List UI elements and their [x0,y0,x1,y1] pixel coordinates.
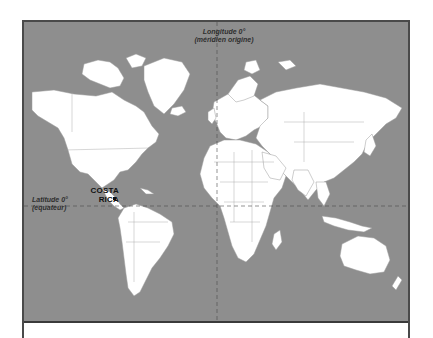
continent-australia [340,236,390,274]
meridian-label: Longitude 0° (méridien origine) [184,28,264,44]
island-iceland [170,106,186,116]
equator-label-line1: Latitude 0° [32,196,82,204]
island-madagascar [272,230,282,250]
arctic-islands [82,60,124,88]
costa-rica-label-line2: RICA [79,195,119,204]
costa-rica-label-line1: COSTA [79,186,119,195]
islands-indonesia [322,216,372,232]
equator-label-line2: (équateur) [32,204,82,212]
meridian-label-line1: Longitude 0° [184,28,264,36]
ocean-background: Longitude 0° (méridien origine) Latitude… [24,22,408,323]
meridian-label-line2: (méridien origine) [184,36,264,44]
continent-greenland [144,58,190,114]
map-frame: Longitude 0° (méridien origine) Latitude… [22,20,410,338]
equator-label: Latitude 0° (équateur) [32,196,82,212]
world-map [24,22,408,321]
costa-rica-label: COSTA RICA [79,186,119,204]
continent-north-america [32,90,159,188]
continent-south-america [118,204,174,296]
island-new-zealand [392,276,402,290]
